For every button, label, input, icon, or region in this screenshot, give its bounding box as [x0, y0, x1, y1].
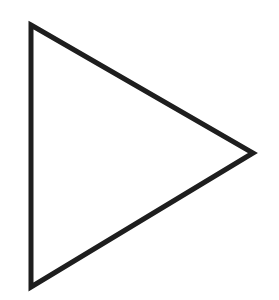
triangle-figure — [0, 0, 279, 300]
diagram-canvas — [0, 0, 279, 300]
play-triangle-icon — [31, 25, 253, 287]
